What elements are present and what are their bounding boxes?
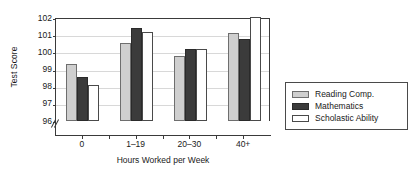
bar [142,32,153,121]
bar [131,28,142,121]
bar [66,64,77,122]
y-axis-tick-label: 99 [30,65,52,74]
x-axis-title: Hours Worked per Week [55,155,271,165]
bar [174,56,185,121]
x-axis-tick-label: 20–30 [159,139,219,149]
legend-swatch [292,115,309,122]
x-axis-tick-label: 40+ [213,139,273,149]
bar-chart-figure: Test Score 96979899100101102 01–1920–304… [0,0,413,182]
x-axis-tick-label: 1–19 [106,139,166,149]
x-axis-group-separator [216,135,217,139]
y-axis-tick-label: 100 [30,48,52,57]
x-axis-tick-label: 0 [52,139,112,149]
bar [196,49,207,121]
legend-item: Mathematics [292,100,402,112]
y-axis-tick-label: 98 [30,82,52,91]
legend-swatch [292,103,309,110]
bar [239,39,250,121]
legend-label: Reading Comp. [315,89,374,99]
legend-label: Mathematics [315,101,363,111]
x-axis-group-separator [109,135,110,139]
x-axis-group-separator [163,135,164,139]
y-axis-tick-label: 97 [30,99,52,108]
bar [250,17,261,121]
bar [228,33,239,121]
legend-swatch [292,91,309,98]
legend-label: Scholastic Ability [315,113,378,123]
legend-item: Reading Comp. [292,88,402,100]
y-axis-tick-mark [53,19,56,20]
y-axis-tick-labels: 96979899100101102 [16,0,52,182]
bar [185,49,196,121]
chart-legend: Reading Comp.MathematicsScholastic Abili… [285,82,408,130]
bar [77,77,88,121]
y-axis-tick-label: 102 [30,14,52,23]
axis-break-icon [48,114,64,130]
bar [88,85,99,121]
legend-item: Scholastic Ability [292,112,402,124]
y-axis-tick-label: 101 [30,31,52,40]
bar [120,43,131,121]
plot-area [55,18,270,121]
